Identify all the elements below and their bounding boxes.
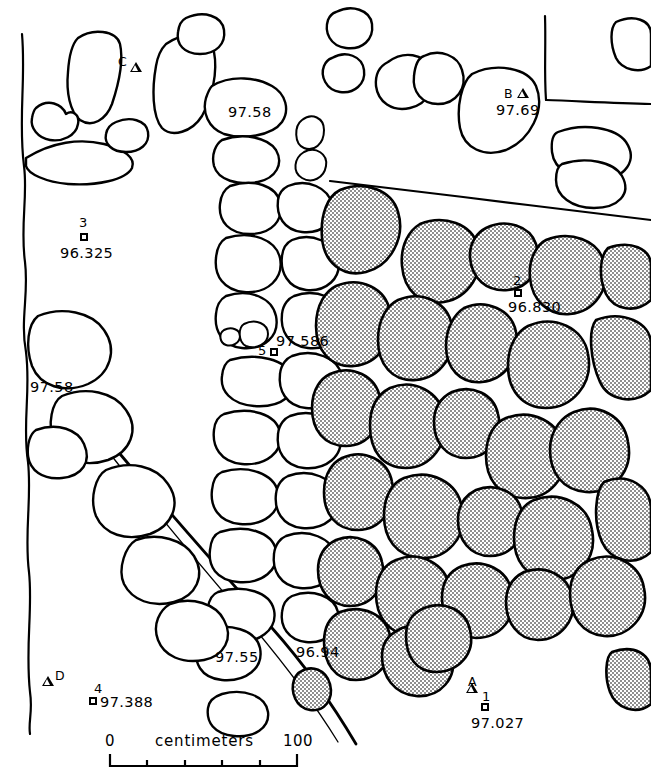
stippled-stone-group: [293, 186, 651, 710]
scale-bar: [110, 754, 297, 766]
elevation-label: 96.94: [296, 645, 340, 660]
datum-point-square-marker: [80, 233, 88, 241]
benchmark-triangle-marker: [130, 62, 142, 72]
datum-point-number: 1: [482, 690, 491, 703]
benchmark-letter: B: [504, 88, 513, 101]
scale-bar-end-label: 100: [283, 734, 313, 749]
datum-point-number: 2: [513, 274, 522, 287]
benchmark-letter: C: [118, 56, 127, 69]
datum-point-square-marker: [514, 289, 522, 297]
elevation-label: 97.55: [215, 650, 259, 665]
datum-point-elevation: 96.325: [60, 246, 113, 261]
elevation-label: 97.58: [228, 105, 272, 120]
benchmark-triangle-marker: [466, 683, 478, 693]
datum-point-square-marker: [89, 697, 97, 705]
benchmark-triangle-marker: [517, 88, 529, 98]
datum-point-elevation: 97.586: [276, 334, 329, 349]
scale-bar-start-label: 0: [105, 734, 115, 749]
datum-point-elevation: 96.830: [508, 300, 561, 315]
datum-point-square-marker: [481, 703, 489, 711]
benchmark-letter: D: [55, 670, 65, 683]
datum-point-number: 3: [79, 216, 88, 229]
datum-point-elevation: 97.027: [471, 716, 524, 731]
elevation-label: 97.58: [30, 380, 74, 395]
scale-bar-caption: centimeters: [155, 734, 254, 749]
benchmark-triangle-marker: [42, 676, 54, 686]
site-plan-figure: 97.58 97.58 97.55 96.94 3 96.325 5 97.58…: [0, 0, 651, 776]
datum-point-elevation: 97.388: [100, 695, 153, 710]
datum-point-square-marker: [270, 348, 278, 356]
datum-point-number: 5: [258, 344, 267, 357]
benchmark-elevation: 97.69: [496, 103, 540, 118]
